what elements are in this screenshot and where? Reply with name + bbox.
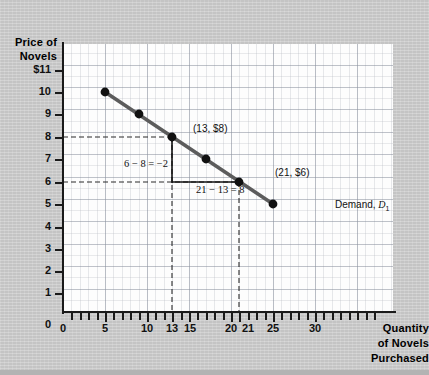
x-tick-36 bbox=[366, 313, 368, 320]
x-tick-15 bbox=[189, 313, 191, 322]
y-axis-line bbox=[62, 42, 64, 314]
x-tick-29 bbox=[307, 313, 309, 320]
annotation-demand-curve-label: Demand, D1 bbox=[335, 199, 390, 212]
x-tick-22 bbox=[248, 313, 250, 320]
y-tick-10 bbox=[55, 92, 62, 94]
demand-label-symbol: D bbox=[378, 199, 385, 210]
x-tick-17 bbox=[206, 313, 208, 320]
x-axis-title-line2: of Novels bbox=[367, 337, 429, 349]
y-axis-title-line1: Price of bbox=[11, 36, 57, 48]
major-gridlines bbox=[63, 44, 393, 312]
x-tick-31 bbox=[323, 313, 325, 320]
x-tick-34 bbox=[349, 313, 351, 320]
y-tick-6 bbox=[55, 182, 62, 184]
y-tick-2 bbox=[55, 271, 62, 273]
y-tick-label-10: 10 bbox=[11, 85, 51, 97]
y-tick-1 bbox=[55, 293, 62, 295]
x-tick-26 bbox=[281, 313, 283, 320]
x-tick-30 bbox=[315, 313, 317, 322]
x-tick-10 bbox=[147, 313, 149, 322]
y-tick-3 bbox=[55, 249, 62, 251]
x-tick-23 bbox=[256, 313, 258, 320]
x-tick-1 bbox=[71, 313, 73, 320]
y-axis-title-line2: Novels bbox=[11, 50, 57, 62]
y-tick-label-9: 9 bbox=[11, 107, 51, 119]
y-tick-9 bbox=[55, 114, 62, 116]
x-tick-28 bbox=[298, 313, 300, 320]
demand-label-text: Demand, bbox=[335, 199, 378, 210]
y-tick-7 bbox=[55, 159, 62, 161]
x-tick-label-25: 25 bbox=[258, 322, 288, 334]
y-tick-label-6: 6 bbox=[11, 175, 51, 187]
x-tick-2 bbox=[80, 313, 82, 320]
x-tick-label-30: 30 bbox=[300, 322, 330, 334]
x-tick-4 bbox=[97, 313, 99, 320]
annotation-rise: 6 − 8 = −2 bbox=[124, 158, 168, 169]
demand-label-subscript: 1 bbox=[386, 205, 390, 212]
y-tick-label-11: $11 bbox=[11, 63, 51, 75]
y-tick-11 bbox=[55, 70, 62, 72]
x-tick-20 bbox=[231, 313, 233, 322]
x-tick-label-5: 5 bbox=[90, 322, 120, 334]
y-tick-label-1: 1 bbox=[11, 286, 51, 298]
y-tick-label-3: 3 bbox=[11, 242, 51, 254]
x-tick-8 bbox=[130, 313, 132, 320]
y-tick-5 bbox=[55, 204, 62, 206]
y-tick-8 bbox=[55, 137, 62, 139]
x-tick-12 bbox=[164, 313, 166, 320]
x-axis-title-line1: Quantity bbox=[367, 322, 429, 334]
x-tick-37 bbox=[374, 313, 376, 320]
x-tick-18 bbox=[214, 313, 216, 320]
x-tick-14 bbox=[181, 313, 183, 320]
x-tick-5 bbox=[105, 313, 107, 322]
x-tick-6 bbox=[113, 313, 115, 320]
x-tick-32 bbox=[332, 313, 334, 320]
x-tick-11 bbox=[155, 313, 157, 320]
x-tick-25 bbox=[273, 313, 275, 322]
y-tick-4 bbox=[55, 227, 62, 229]
y-tick-label-5: 5 bbox=[11, 197, 51, 209]
y-tick-label-7: 7 bbox=[11, 152, 51, 164]
x-tick-24 bbox=[265, 313, 267, 320]
x-tick-16 bbox=[197, 313, 199, 320]
x-tick-label-15: 15 bbox=[175, 322, 205, 334]
x-axis-title-line3: Purchased bbox=[367, 352, 429, 364]
x-tick-33 bbox=[340, 313, 342, 320]
y-tick-label-0: 0 bbox=[11, 318, 51, 330]
x-tick-label-0: 0 bbox=[48, 322, 78, 334]
annotation-run: 21 − 13 = 8 bbox=[196, 184, 245, 195]
x-tick-35 bbox=[357, 313, 359, 320]
x-tick-19 bbox=[223, 313, 225, 320]
x-tick-3 bbox=[88, 313, 90, 320]
annotation-point-13-8: (13, $8) bbox=[193, 123, 227, 134]
y-tick-label-8: 8 bbox=[11, 130, 51, 142]
y-tick-label-4: 4 bbox=[11, 220, 51, 232]
x-tick-21 bbox=[239, 313, 241, 322]
x-tick-13 bbox=[172, 313, 174, 322]
y-tick-label-2: 2 bbox=[11, 264, 51, 276]
plot-area bbox=[63, 44, 393, 312]
demand-curve-figure: $11 10 9 8 7 6 5 4 3 2 1 0 0 5 10 13 15 … bbox=[0, 0, 429, 375]
annotation-point-21-6: (21, $6) bbox=[275, 167, 309, 178]
x-tick-7 bbox=[122, 313, 124, 320]
x-tick-27 bbox=[290, 313, 292, 320]
x-tick-9 bbox=[139, 313, 141, 320]
